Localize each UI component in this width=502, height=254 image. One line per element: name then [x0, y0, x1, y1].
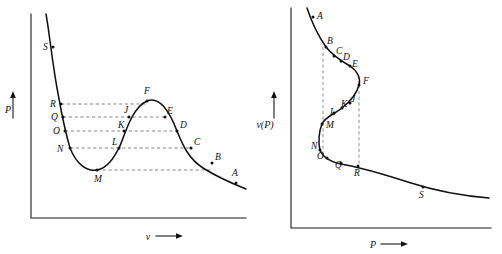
- right-point-label-C: C: [336, 46, 343, 56]
- left-x-axis-label: v: [146, 231, 151, 242]
- right-point-label-Q: Q: [335, 160, 342, 170]
- panel-volume-vs-pressure: v(P) P: [251, 0, 502, 254]
- left-point-label-F: F: [143, 86, 150, 96]
- left-point-label-E: E: [166, 106, 173, 116]
- right-x-axis-indicator: [381, 241, 408, 247]
- right-point-label-R: R: [353, 168, 360, 178]
- right-point-label-M: M: [325, 120, 335, 130]
- right-point-label-K: K: [340, 99, 348, 109]
- left-point-label-K: K: [117, 120, 125, 130]
- left-point-label-Q: Q: [51, 112, 58, 122]
- right-point-label-J: J: [351, 94, 356, 104]
- right-point-label-A: A: [316, 11, 323, 21]
- left-point-label-J: J: [124, 105, 129, 115]
- left-point-label-L: L: [111, 137, 117, 147]
- left-point-label-A: A: [231, 168, 238, 178]
- right-point-label-E: E: [351, 59, 358, 69]
- left-point-label-S: S: [43, 42, 48, 52]
- right-point-label-B: B: [327, 36, 333, 46]
- right-point-label-D: D: [342, 52, 350, 62]
- figure-root: P v: [0, 0, 502, 254]
- right-point-label-F: F: [362, 76, 369, 86]
- left-point-label-O: O: [53, 126, 60, 136]
- right-x-axis-label: P: [369, 239, 376, 250]
- left-point-label-D: D: [179, 120, 187, 130]
- left-x-axis-indicator: [156, 233, 183, 239]
- right-y-axis-label: v(P): [256, 119, 274, 131]
- panel-pressure-vs-volume: P v: [0, 0, 251, 254]
- left-point-label-M: M: [93, 174, 103, 184]
- right-plot-svg: v(P) P: [251, 0, 502, 254]
- left-point-label-R: R: [49, 99, 56, 109]
- left-y-axis-label: P: [4, 104, 11, 115]
- right-y-axis-indicator: [271, 91, 277, 118]
- left-point-label-B: B: [215, 152, 221, 162]
- left-point-label-C: C: [194, 137, 201, 147]
- left-point-label-N: N: [56, 144, 64, 154]
- right-point-label-S: S: [419, 190, 424, 200]
- left-plot-svg: P v: [0, 0, 251, 254]
- right-point-label-N: N: [310, 141, 318, 151]
- right-point-label-L: L: [329, 107, 335, 117]
- right-point-label-O: O: [317, 151, 324, 161]
